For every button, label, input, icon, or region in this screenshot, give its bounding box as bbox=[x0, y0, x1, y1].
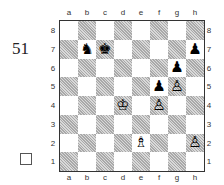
file-label-d: d bbox=[114, 8, 132, 17]
rank-label-6: 6 bbox=[49, 64, 57, 73]
rank-label-2: 2 bbox=[205, 139, 213, 148]
square-c1[interactable] bbox=[96, 152, 114, 171]
square-f3[interactable] bbox=[150, 115, 168, 134]
white-pawn-icon[interactable]: ♙ bbox=[186, 134, 204, 153]
square-b2[interactable] bbox=[78, 134, 96, 153]
square-e7[interactable] bbox=[132, 40, 150, 59]
square-b6[interactable] bbox=[78, 59, 96, 78]
rank-label-8: 8 bbox=[205, 26, 213, 35]
square-e4[interactable] bbox=[132, 96, 150, 115]
rank-label-3: 3 bbox=[49, 120, 57, 129]
square-f1[interactable] bbox=[150, 152, 168, 171]
white-bishop-icon[interactable]: ♗ bbox=[132, 134, 150, 153]
square-f7[interactable] bbox=[150, 40, 168, 59]
square-d7[interactable] bbox=[114, 40, 132, 59]
square-b4[interactable] bbox=[78, 96, 96, 115]
square-d5[interactable] bbox=[114, 77, 132, 96]
square-h8[interactable] bbox=[186, 21, 204, 40]
black-pawn-icon[interactable]: ♟ bbox=[150, 77, 168, 96]
rank-label-6: 6 bbox=[205, 64, 213, 73]
square-c5[interactable] bbox=[96, 77, 114, 96]
file-label-g: g bbox=[168, 173, 186, 182]
file-label-b: b bbox=[78, 8, 96, 17]
white-king-icon[interactable]: ♔ bbox=[114, 96, 132, 115]
square-a3[interactable] bbox=[60, 115, 78, 134]
rank-label-1: 1 bbox=[205, 157, 213, 166]
file-label-a: a bbox=[60, 8, 78, 17]
square-a8[interactable] bbox=[60, 21, 78, 40]
rank-label-7: 7 bbox=[205, 45, 213, 54]
file-label-f: f bbox=[150, 173, 168, 182]
file-label-f: f bbox=[150, 8, 168, 17]
square-a5[interactable] bbox=[60, 77, 78, 96]
square-f2[interactable] bbox=[150, 134, 168, 153]
square-c4[interactable] bbox=[96, 96, 114, 115]
square-d1[interactable] bbox=[114, 152, 132, 171]
rank-label-5: 5 bbox=[49, 82, 57, 91]
white-pawn-icon[interactable]: ♙ bbox=[150, 96, 168, 115]
file-label-h: h bbox=[186, 8, 204, 17]
square-h6[interactable] bbox=[186, 59, 204, 78]
square-h1[interactable] bbox=[186, 152, 204, 171]
square-c3[interactable] bbox=[96, 115, 114, 134]
rank-label-4: 4 bbox=[49, 101, 57, 110]
square-f6[interactable] bbox=[150, 59, 168, 78]
black-pawn-icon[interactable]: ♟ bbox=[186, 40, 204, 59]
square-e8[interactable] bbox=[132, 21, 150, 40]
square-h5[interactable] bbox=[186, 77, 204, 96]
square-a7[interactable] bbox=[60, 40, 78, 59]
square-g1[interactable] bbox=[168, 152, 186, 171]
square-a6[interactable] bbox=[60, 59, 78, 78]
solved-checkbox[interactable] bbox=[20, 153, 32, 165]
rank-label-3: 3 bbox=[205, 120, 213, 129]
white-pawn-icon[interactable]: ♙ bbox=[168, 77, 186, 96]
square-h4[interactable] bbox=[186, 96, 204, 115]
chess-board: ♞♚♟♟♟♙♔♙♗♙ bbox=[59, 20, 205, 172]
rank-label-8: 8 bbox=[49, 26, 57, 35]
square-a1[interactable] bbox=[60, 152, 78, 171]
file-label-e: e bbox=[132, 173, 150, 182]
square-d8[interactable] bbox=[114, 21, 132, 40]
square-g4[interactable] bbox=[168, 96, 186, 115]
file-label-b: b bbox=[78, 173, 96, 182]
square-d6[interactable] bbox=[114, 59, 132, 78]
file-label-a: a bbox=[60, 173, 78, 182]
square-b8[interactable] bbox=[78, 21, 96, 40]
square-g8[interactable] bbox=[168, 21, 186, 40]
file-label-c: c bbox=[96, 173, 114, 182]
file-label-d: d bbox=[114, 173, 132, 182]
square-a2[interactable] bbox=[60, 134, 78, 153]
black-king-icon[interactable]: ♚ bbox=[96, 40, 114, 59]
square-g2[interactable] bbox=[168, 134, 186, 153]
square-c6[interactable] bbox=[96, 59, 114, 78]
square-e6[interactable] bbox=[132, 59, 150, 78]
rank-label-2: 2 bbox=[49, 139, 57, 148]
square-d3[interactable] bbox=[114, 115, 132, 134]
black-pawn-icon[interactable]: ♟ bbox=[168, 59, 186, 78]
rank-label-5: 5 bbox=[205, 82, 213, 91]
square-a4[interactable] bbox=[60, 96, 78, 115]
puzzle-number: 51 bbox=[12, 39, 29, 59]
square-h3[interactable] bbox=[186, 115, 204, 134]
square-d2[interactable] bbox=[114, 134, 132, 153]
file-label-g: g bbox=[168, 8, 186, 17]
file-label-c: c bbox=[96, 8, 114, 17]
rank-label-7: 7 bbox=[49, 45, 57, 54]
square-c2[interactable] bbox=[96, 134, 114, 153]
square-b3[interactable] bbox=[78, 115, 96, 134]
square-g7[interactable] bbox=[168, 40, 186, 59]
square-e3[interactable] bbox=[132, 115, 150, 134]
file-label-e: e bbox=[132, 8, 150, 17]
square-c8[interactable] bbox=[96, 21, 114, 40]
square-g3[interactable] bbox=[168, 115, 186, 134]
file-label-h: h bbox=[186, 173, 204, 182]
black-knight-icon[interactable]: ♞ bbox=[78, 40, 96, 59]
square-e5[interactable] bbox=[132, 77, 150, 96]
square-f8[interactable] bbox=[150, 21, 168, 40]
square-b5[interactable] bbox=[78, 77, 96, 96]
rank-label-4: 4 bbox=[205, 101, 213, 110]
square-e1[interactable] bbox=[132, 152, 150, 171]
square-b1[interactable] bbox=[78, 152, 96, 171]
rank-label-1: 1 bbox=[49, 157, 57, 166]
